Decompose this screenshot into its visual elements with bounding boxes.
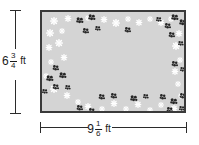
width-denominator: 6 bbox=[95, 130, 101, 138]
white-daisy-flower-icon bbox=[101, 10, 108, 27]
dark-flower-cluster-icon bbox=[98, 87, 106, 105]
height-numerator: 3 bbox=[10, 52, 16, 60]
height-label: 6 3 4 ft bbox=[2, 52, 26, 71]
dark-flower-cluster-icon bbox=[179, 13, 187, 31]
white-daisy-flower-icon bbox=[147, 10, 153, 26]
dark-flower-cluster-icon bbox=[179, 98, 186, 113]
garden-rectangle bbox=[40, 10, 186, 113]
diagram-canvas: 6 3 4 ft 9 1 6 ft bbox=[0, 0, 199, 145]
width-tick-right bbox=[186, 122, 187, 133]
dark-flower-cluster-icon bbox=[180, 59, 187, 77]
white-daisy-flower-icon bbox=[136, 12, 143, 30]
dark-flower-cluster-icon bbox=[166, 100, 174, 113]
dark-flower-cluster-icon bbox=[65, 77, 72, 95]
dark-flower-cluster-icon bbox=[88, 101, 96, 113]
dark-flower-cluster-icon bbox=[178, 33, 185, 51]
white-daisy-flower-icon bbox=[123, 98, 129, 113]
dark-flower-cluster-icon bbox=[110, 86, 118, 104]
dark-flower-cluster-icon bbox=[52, 77, 60, 95]
height-tick-bottom bbox=[10, 113, 21, 114]
flower-border bbox=[42, 12, 184, 111]
dark-flower-cluster-icon bbox=[95, 18, 102, 36]
width-fraction: 1 6 bbox=[95, 120, 102, 139]
width-unit: ft bbox=[105, 124, 111, 134]
width-dimension-line-right bbox=[112, 127, 186, 128]
white-daisy-flower-icon bbox=[61, 47, 68, 65]
width-dimension-line-left bbox=[40, 127, 88, 128]
height-denominator: 4 bbox=[10, 62, 16, 70]
dark-flower-cluster-icon bbox=[124, 20, 132, 38]
dark-flower-cluster-icon bbox=[171, 54, 179, 72]
dark-flower-cluster-icon bbox=[168, 25, 176, 43]
height-dimension-line-lower bbox=[15, 80, 16, 113]
dark-flower-cluster-icon bbox=[76, 98, 84, 113]
height-dimension-line-upper bbox=[15, 10, 16, 49]
dark-flower-cluster-icon bbox=[143, 86, 150, 104]
height-fraction: 3 4 bbox=[10, 52, 17, 71]
width-numerator: 1 bbox=[95, 120, 101, 128]
dark-flower-cluster-icon bbox=[130, 89, 139, 107]
width-whole-number: 9 bbox=[87, 123, 94, 135]
dark-flower-cluster-icon bbox=[156, 10, 163, 27]
dark-flower-cluster-icon bbox=[82, 21, 90, 39]
white-daisy-flower-icon bbox=[112, 13, 120, 31]
height-unit: ft bbox=[20, 56, 26, 66]
width-label: 9 1 6 ft bbox=[87, 120, 111, 139]
dark-flower-cluster-icon bbox=[42, 81, 49, 99]
white-daisy-flower-icon bbox=[65, 10, 72, 26]
height-whole-number: 6 bbox=[2, 55, 9, 67]
